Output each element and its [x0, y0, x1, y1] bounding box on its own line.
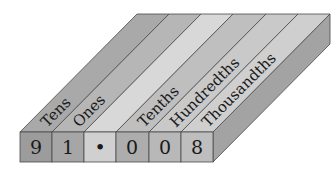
- digit-decimal-point: •: [94, 136, 105, 158]
- digit-hundredths: 0: [159, 136, 171, 158]
- digit-tenths: 0: [126, 136, 138, 158]
- digit-ones: 1: [62, 136, 74, 158]
- front-faces: [20, 132, 213, 162]
- digit-tens: 9: [30, 136, 42, 158]
- place-value-diagram: Tens Ones Tenths Hundredths Thousandths …: [0, 0, 331, 176]
- digit-thousandths: 8: [191, 136, 203, 158]
